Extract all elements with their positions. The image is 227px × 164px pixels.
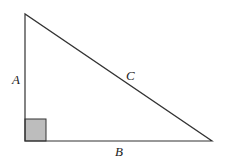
right-angle-marker xyxy=(25,119,46,141)
side-b-label: B xyxy=(115,144,123,159)
side-a-label: A xyxy=(11,72,20,87)
triangle-outline xyxy=(25,14,212,141)
right-triangle-diagram: A C B xyxy=(0,0,227,164)
side-c-label: C xyxy=(126,68,135,83)
